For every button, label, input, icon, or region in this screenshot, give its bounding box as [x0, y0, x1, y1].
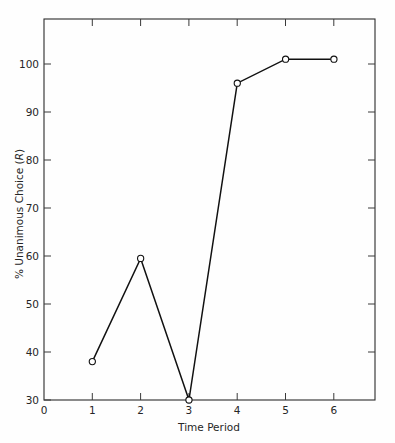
- x-tick-label-6: 6: [330, 404, 337, 416]
- y-axis-title-suffix: ): [13, 149, 25, 153]
- x-tick-label-5: 5: [282, 404, 289, 416]
- data-series-line: [92, 59, 334, 400]
- data-point-1: [89, 359, 95, 365]
- y-tick-label-30: 30: [26, 394, 39, 406]
- x-tick-label-4: 4: [234, 404, 241, 416]
- x-axis-top-ticks: [92, 19, 333, 26]
- line-chart-canvas: 30 40 50 60 70 80 90 100: [0, 0, 395, 443]
- x-tick-label-3: 3: [186, 404, 193, 416]
- chart-figure: 30 40 50 60 70 80 90 100: [0, 0, 395, 443]
- y-tick-label-100: 100: [19, 58, 39, 70]
- y-axis-title: % Unanimous Choice (R): [13, 149, 25, 279]
- data-point-5: [283, 56, 289, 62]
- y-tick-label-70: 70: [26, 202, 39, 214]
- y-tick-label-60: 60: [26, 250, 39, 262]
- y-axis-ticks: [44, 64, 51, 400]
- y-tick-label-40: 40: [26, 346, 39, 358]
- x-axis-title: Time Period: [177, 421, 240, 433]
- x-tick-label-2: 2: [137, 404, 144, 416]
- x-tick-label-0: 0: [41, 404, 48, 416]
- x-axis-tick-labels: 0 1 2 3 4 5 6: [41, 404, 338, 416]
- y-axis-title-prefix: % Unanimous Choice (: [13, 160, 25, 279]
- y-tick-label-50: 50: [26, 298, 39, 310]
- y-tick-label-80: 80: [26, 154, 39, 166]
- x-axis-ticks: [92, 393, 333, 400]
- data-point-6: [331, 56, 337, 62]
- data-point-markers: [89, 56, 337, 403]
- x-tick-label-1: 1: [89, 404, 96, 416]
- y-tick-label-90: 90: [26, 106, 39, 118]
- data-point-4: [234, 80, 240, 86]
- plot-frame: [44, 19, 375, 400]
- data-point-2: [138, 255, 144, 261]
- data-point-3: [186, 397, 192, 403]
- y-axis-right-ticks: [368, 64, 375, 352]
- y-axis-title-italic-r: R: [13, 153, 25, 160]
